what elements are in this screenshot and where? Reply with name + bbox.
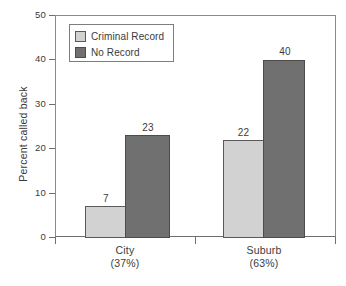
y-tick-mark-20 <box>49 148 55 149</box>
x-group-name-suburb: Suburb <box>246 244 281 256</box>
legend-item-no-record: No Record <box>75 45 173 60</box>
bar-suburb-no-record <box>263 60 305 238</box>
bar-value-suburb-no-record: 40 <box>264 46 306 57</box>
legend-swatch-icon-no-record <box>75 47 86 58</box>
y-tick-label-40: 40 <box>20 54 46 64</box>
legend-label-criminal-record: Criminal Record <box>91 31 164 42</box>
y-tick-mark-30 <box>49 104 55 105</box>
y-tick-mark-50 <box>49 15 55 16</box>
x-group-pct-suburb: (63%) <box>219 257 309 270</box>
x-tick-mark-right <box>335 237 336 244</box>
x-group-pct-city: (37%) <box>80 257 170 270</box>
y-tick-label-0: 0 <box>20 232 46 242</box>
figure-caption-remnant <box>4 276 204 285</box>
x-tick-mark-middle <box>195 237 196 244</box>
bar-value-city-criminal-record: 7 <box>86 193 126 204</box>
y-tick-mark-40 <box>49 59 55 60</box>
bar-chart: 50 40 30 20 10 0 Percent called back 7 2… <box>0 0 346 286</box>
bar-suburb-criminal-record <box>223 140 264 238</box>
legend-item-criminal-record: Criminal Record <box>75 29 173 44</box>
x-group-label-suburb: Suburb (63%) <box>219 244 309 270</box>
x-group-label-city: City (37%) <box>80 244 170 270</box>
x-tick-mark-left <box>55 237 56 244</box>
legend-swatch-icon-criminal-record <box>75 31 86 42</box>
x-group-name-city: City <box>116 244 135 256</box>
bar-city-no-record <box>125 135 170 238</box>
y-tick-label-50: 50 <box>20 10 46 20</box>
bar-value-suburb-criminal-record: 22 <box>223 127 264 138</box>
legend-label-no-record: No Record <box>91 47 140 58</box>
bar-city-criminal-record <box>85 206 126 238</box>
legend: Criminal Record No Record <box>69 24 174 62</box>
bar-value-city-no-record: 23 <box>127 122 169 133</box>
y-axis-title: Percent called back <box>17 64 29 204</box>
y-tick-mark-10 <box>49 193 55 194</box>
